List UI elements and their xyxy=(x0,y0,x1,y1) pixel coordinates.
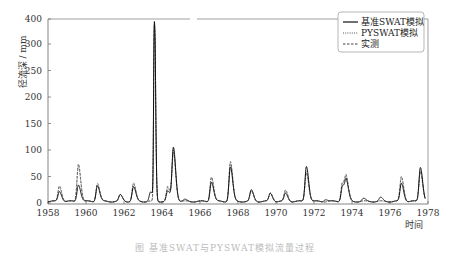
legend-label: 实测 xyxy=(361,38,379,49)
legend: 基准SWAT模拟PYSWAT模拟实测 xyxy=(338,12,424,52)
x-tick-label: 1966 xyxy=(189,208,212,218)
y-tick-label: 50 xyxy=(31,172,43,182)
y-axis-title: 径流深 / mm xyxy=(17,35,28,88)
x-tick-label: 1978 xyxy=(417,208,440,218)
x-tick-label: 1968 xyxy=(227,208,250,218)
x-tick-label: 1972 xyxy=(303,208,326,218)
x-axis: 1958196019621964196619681970197219741976… xyxy=(37,201,440,218)
x-tick-label: 1964 xyxy=(151,208,174,218)
x-tick-label: 1958 xyxy=(37,208,60,218)
y-tick-label: 150 xyxy=(25,119,42,129)
x-tick-label: 1960 xyxy=(75,208,98,218)
figure-caption: 图 基准SWAT与PYSWAT模拟流量过程 xyxy=(0,241,450,254)
x-axis-title: 时间 xyxy=(405,219,423,230)
x-tick-label: 1976 xyxy=(379,208,402,218)
x-tick-label: 1970 xyxy=(265,208,288,218)
legend-label: 基准SWAT模拟 xyxy=(361,16,424,27)
x-tick-label: 1974 xyxy=(341,208,364,218)
y-tick-label: 0 xyxy=(36,198,42,208)
y-axis: 050100150200250300400 xyxy=(25,14,51,208)
y-tick-label: 200 xyxy=(25,92,42,102)
y-tick-label: 400 xyxy=(25,14,42,24)
y-tick-label: 100 xyxy=(25,145,42,155)
x-tick-label: 1962 xyxy=(113,208,136,218)
legend-label: PYSWAT模拟 xyxy=(361,27,418,38)
